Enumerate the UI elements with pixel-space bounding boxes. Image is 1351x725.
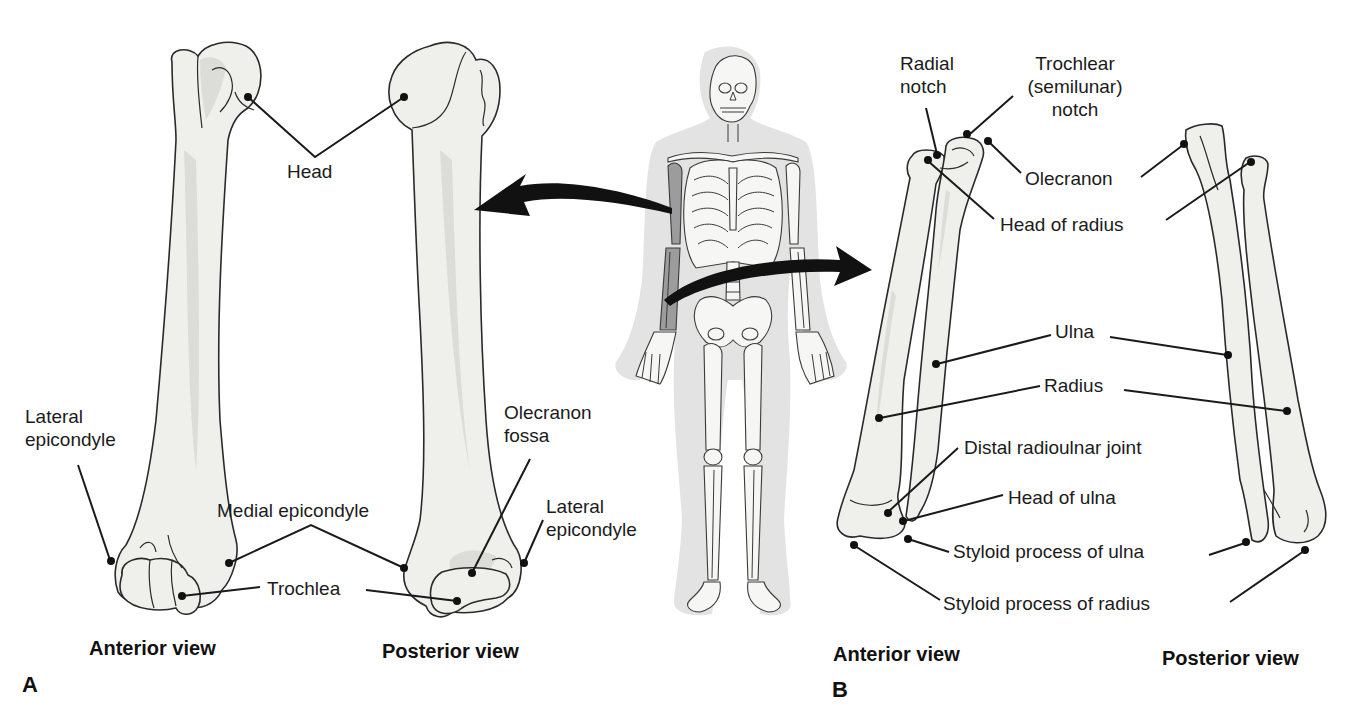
forearm-posterior [1186,124,1326,543]
label-line: epicondyle [25,428,116,451]
label-trochlear-notch: Trochlear (semilunar) notch [1013,52,1137,121]
label-head-of-radius: Head of radius [1000,213,1124,236]
label-styloid-process-radius: Styloid process of radius [943,592,1150,615]
label-line: Trochlear [1013,52,1137,75]
label-lateral-epicondyle-posterior: Lateral epicondyle [546,495,637,541]
view-label-forearm-anterior: Anterior view [833,643,960,666]
label-line: Lateral [25,405,116,428]
panel-letter-a: A [22,672,38,698]
label-trochlea: Trochlea [267,577,340,600]
label-radius: Radius [1044,374,1103,397]
label-ulna: Ulna [1055,320,1094,343]
label-line: Olecranon [504,401,592,424]
label-line: fossa [504,424,592,447]
humerus-posterior [389,42,521,616]
anatomy-figure [0,0,1351,725]
skeleton-figure [615,46,846,615]
view-label-humerus-posterior: Posterior view [382,640,519,663]
label-line: notch [1013,98,1137,121]
label-line: Lateral [546,495,637,518]
humerus-anterior [115,42,261,614]
label-olecranon: Olecranon [1025,167,1113,190]
label-line: (semilunar) [1013,75,1137,98]
label-styloid-process-ulna: Styloid process of ulna [953,540,1144,563]
label-line: notch [900,75,954,98]
view-label-humerus-anterior: Anterior view [89,637,216,660]
label-line: epicondyle [546,518,637,541]
label-distal-radioulnar-joint: Distal radioulnar joint [964,436,1141,459]
label-head-of-ulna: Head of ulna [1008,486,1116,509]
panel-letter-b: B [832,677,848,703]
label-line: Radial [900,52,954,75]
label-medial-epicondyle: Medial epicondyle [217,499,369,522]
label-head: Head [287,160,332,183]
forearm-anterior [837,137,983,538]
view-label-forearm-posterior: Posterior view [1162,647,1299,670]
label-lateral-epicondyle-anterior: Lateral epicondyle [25,405,116,451]
label-radial-notch: Radial notch [900,52,954,98]
label-olecranon-fossa: Olecranon fossa [504,401,592,447]
arrow-to-humerus [474,174,672,216]
